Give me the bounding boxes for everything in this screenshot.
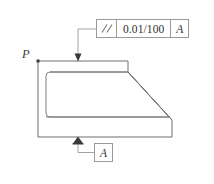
point-p-marker [37, 60, 40, 63]
tolerance-value: 0.01/100 [117, 20, 171, 37]
parallelism-symbol [97, 20, 117, 37]
point-p-label: P [22, 48, 30, 61]
fcf-leader-arrowhead [75, 54, 82, 62]
part-inner-recess [46, 72, 169, 117]
feature-control-frame[interactable]: 0.01/100 A [96, 19, 189, 38]
datum-label-box[interactable]: A [94, 143, 113, 162]
drawing-canvas: 0.01/100 A A P [0, 0, 214, 184]
datum-reference-letter: A [171, 20, 188, 37]
fcf-leader-line [78, 29, 96, 55]
sloped-face-edge [128, 72, 172, 120]
parallelism-icon [100, 23, 114, 34]
datum-triangle-indicator [73, 137, 84, 145]
